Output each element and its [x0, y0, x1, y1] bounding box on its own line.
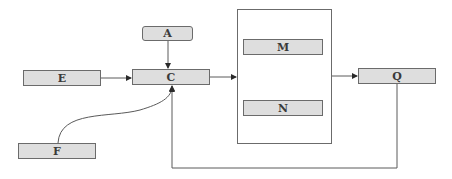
node-q: Q — [358, 68, 436, 84]
node-f: F — [18, 143, 96, 159]
node-m-label: M — [277, 41, 289, 54]
edge-f-to-c — [58, 86, 172, 143]
node-e: E — [23, 70, 101, 86]
node-e-label: E — [58, 72, 66, 85]
node-c-label: C — [167, 71, 176, 84]
node-f-label: F — [53, 145, 61, 158]
node-m: M — [243, 39, 323, 55]
node-q-label: Q — [392, 70, 402, 83]
node-n-label: N — [278, 102, 288, 115]
node-n: N — [243, 100, 323, 116]
node-c: C — [132, 69, 210, 85]
node-a: A — [142, 26, 193, 41]
node-a-label: A — [163, 27, 172, 40]
group-mn-container — [237, 9, 332, 144]
